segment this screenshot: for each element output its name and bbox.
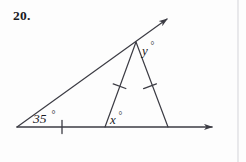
degree-symbol-x: ° <box>119 111 123 121</box>
angle-label-35: 35 <box>32 111 47 126</box>
worksheet-page: 20. 35 ° x ° y ° <box>0 0 246 162</box>
geometry-figure: 35 ° x ° y ° <box>0 0 246 162</box>
angle-label-x: x <box>109 112 116 127</box>
apex-to-right-foot-segment <box>136 42 168 127</box>
degree-symbol-35: ° <box>52 109 56 120</box>
right-leg-tick-mark-icon <box>144 84 157 89</box>
angle-label-y: y <box>140 43 148 58</box>
degree-symbol-y: ° <box>151 41 155 51</box>
